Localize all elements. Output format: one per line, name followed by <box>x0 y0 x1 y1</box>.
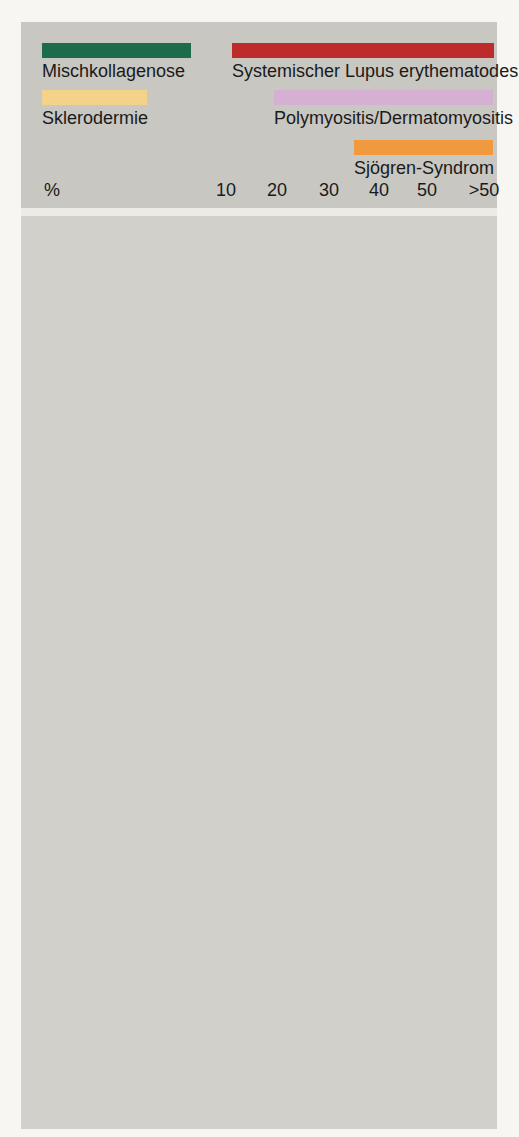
legend-label-sjoegren: Sjögren-Syndrom <box>354 158 493 179</box>
legend-label-mischkollagenose: Mischkollagenose <box>42 61 191 82</box>
legend-label-polymyositis: Polymyositis/Dermatomyositis <box>274 108 493 129</box>
legend-item-sjoegren: Sjögren-Syndrom <box>354 140 493 179</box>
chart-rows <box>21 216 497 1129</box>
legend: Mischkollagenose Systemischer Lupus eryt… <box>21 22 497 208</box>
legend-swatch-sjoegren <box>354 140 493 155</box>
legend-divider <box>21 208 497 216</box>
legend-swatch-polymyositis <box>274 90 493 105</box>
axis-tick-40: 40 <box>369 180 389 201</box>
axis-tick-50: 50 <box>417 180 437 201</box>
legend-item-sle: Systemischer Lupus erythematodes <box>232 43 494 82</box>
axis-tick-10: 10 <box>216 180 236 201</box>
legend-label-sklerodermie: Sklerodermie <box>42 108 147 129</box>
legend-item-mischkollagenose: Mischkollagenose <box>42 43 191 82</box>
axis-tick-20: 20 <box>267 180 287 201</box>
axis: % 1020304050>50 <box>21 180 497 204</box>
legend-swatch-mischkollagenose <box>42 43 191 58</box>
axis-ticks: 1020304050>50 <box>212 180 496 204</box>
legend-item-sklerodermie: Sklerodermie <box>42 90 147 129</box>
axis-unit-label: % <box>44 180 60 201</box>
axis-tick-50: >50 <box>469 180 500 201</box>
legend-label-sle: Systemischer Lupus erythematodes <box>232 61 494 82</box>
legend-item-polymyositis: Polymyositis/Dermatomyositis <box>274 90 493 129</box>
figure-panel: Mischkollagenose Systemischer Lupus eryt… <box>21 22 497 1129</box>
axis-tick-30: 30 <box>319 180 339 201</box>
legend-swatch-sle <box>232 43 494 58</box>
legend-swatch-sklerodermie <box>42 90 147 105</box>
